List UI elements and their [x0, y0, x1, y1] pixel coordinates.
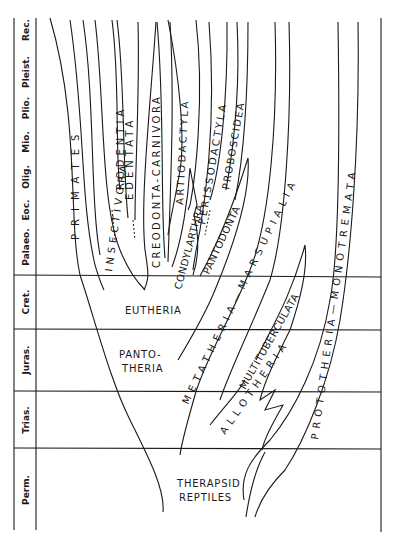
label-primates: PRIMATES — [70, 127, 81, 240]
label-eutheria: EUTHERIA — [125, 305, 182, 316]
label-multituberculata: MULTITUBERCULATA — [237, 291, 301, 391]
label-therapsid-1: THERAPSID — [176, 478, 241, 489]
period-eoc: Eoc. — [21, 199, 31, 220]
period-olig: Olig. — [21, 165, 31, 189]
label-pantotheria-1: PANTO- — [119, 349, 161, 360]
period-juras: Juras. — [21, 345, 31, 375]
period-mio: Mio. — [21, 131, 31, 153]
period-pleist: Pleist. — [21, 56, 31, 88]
label-allotheria: ALLOTHERIA — [218, 338, 291, 436]
period-labels: Rec. Pleist. Plio. Mio. Olig. Eoc. Palae… — [21, 19, 31, 505]
phylogeny-diagram: Rec. Pleist. Plio. Mio. Olig. Eoc. Palae… — [0, 0, 394, 547]
label-therapsid-2: REPTILES — [179, 492, 232, 503]
period-rec: Rec. — [21, 19, 31, 41]
label-pantotheria-2: THERIA — [121, 363, 164, 374]
period-plio: Plio. — [21, 97, 31, 119]
period-trias: Trias. — [21, 406, 31, 434]
period-cret: Cret. — [21, 290, 31, 315]
label-prototheria: PROTOTHERIA—MONOTREMATA — [309, 167, 358, 440]
label-creodonta: CREODONTA-CARNIVORA — [151, 95, 162, 268]
label-edentata: EDENTATA — [124, 117, 135, 200]
period-palaeo: Palaeo. — [21, 228, 31, 265]
order-labels: PRIMATES INSECTIVORA RODENTIA EDENTATA C… — [70, 95, 246, 291]
time-axis-frame — [14, 18, 381, 532]
period-perm: Perm. — [21, 475, 31, 505]
